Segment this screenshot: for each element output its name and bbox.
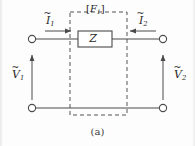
current-label-left: ~I1: [46, 15, 55, 26]
network-boundary-dashed-box: [70, 12, 127, 115]
tilde-accent-v2: ~: [173, 62, 181, 71]
current-label-right: ~I2: [139, 15, 148, 26]
matrix-symbol: F: [90, 3, 97, 14]
figure-caption: (a): [0, 126, 195, 137]
figure-canvas: ~I1 ~I2 ~V1 ~V2 [F1] Z (a): [0, 0, 195, 146]
voltage-subscript-v2: 2: [182, 74, 186, 82]
matrix-subscript: 1: [97, 8, 101, 15]
voltage-subscript-v1: 1: [20, 74, 24, 82]
tilde-accent-i1: ~: [44, 8, 52, 17]
tilde-accent-i2: ~: [137, 8, 145, 17]
current-subscript-i2: 2: [143, 20, 147, 28]
voltage-label-left: ~V1: [12, 69, 24, 80]
voltage-label-right: ~V2: [174, 69, 186, 80]
terminal-bottom-right: [159, 104, 166, 111]
terminal-top-left: [28, 35, 35, 42]
terminal-bottom-left: [28, 104, 35, 111]
impedance-label: Z: [89, 33, 97, 44]
tilde-accent-v1: ~: [11, 62, 19, 71]
network-matrix-label: [F1]: [86, 4, 105, 14]
bracket-close: ]: [101, 3, 105, 14]
terminal-top-right: [159, 35, 166, 42]
two-port-network-diagram: [0, 0, 195, 146]
current-subscript-i1: 1: [50, 20, 54, 28]
